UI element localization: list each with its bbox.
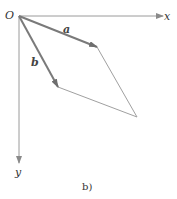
origin-label: O — [5, 9, 14, 22]
vector-a-label: a — [63, 23, 70, 36]
y-axis-label: y — [14, 166, 22, 179]
x-axis-label: x — [164, 10, 171, 23]
vector-b-arrow — [19, 16, 58, 87]
parallelogram-side-b-to-sum — [58, 87, 137, 117]
figure-caption: b) — [82, 181, 92, 192]
vector-b-label: b — [31, 56, 39, 69]
parallelogram-side-a-to-sum — [97, 47, 137, 117]
vector-a-arrow — [19, 16, 97, 47]
vector-parallelogram-diagram: O x y a b b) — [0, 0, 177, 199]
